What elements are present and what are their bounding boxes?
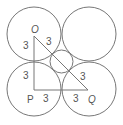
segment-label-pq-left: 3: [43, 93, 49, 104]
circle-bottom-right: [62, 62, 116, 116]
point-label-q: Q: [88, 94, 96, 105]
geometry-diagram: O P Q 3 3 3 3 3 3: [0, 0, 123, 125]
point-label-o: O: [31, 24, 39, 35]
circle-center: [50, 50, 73, 73]
point-label-p: P: [27, 94, 34, 105]
circle-top-right: [62, 7, 116, 61]
segment-label-oq-upper: 3: [46, 36, 52, 47]
segment-label-op-upper: 3: [23, 40, 29, 51]
segment-label-op-lower: 3: [23, 70, 29, 81]
segment-label-pq-right: 3: [73, 93, 79, 104]
segment-label-oq-lower: 3: [80, 71, 86, 82]
